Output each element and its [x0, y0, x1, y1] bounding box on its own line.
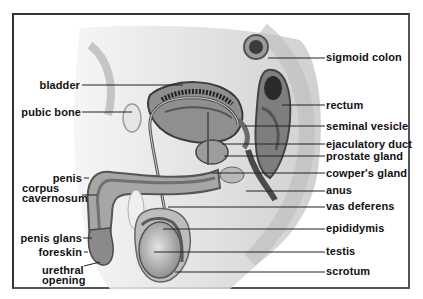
label-penis-glans: penis glans [20, 233, 82, 244]
label-bladder: bladder [24, 80, 80, 91]
label-foreskin: foreskin [30, 247, 82, 258]
label-rectum: rectum [326, 100, 363, 111]
label-testis: testis [326, 246, 355, 257]
label-sigmoid-colon: sigmoid colon [326, 52, 402, 63]
label-pubic-bone: pubic bone [20, 107, 81, 118]
label-opening-line2: opening [42, 275, 85, 285]
label-cowpers-gland: cowper's gland [326, 168, 407, 179]
sigmoid-colon-shape [244, 35, 268, 59]
label-seminal-vesicle: seminal vesicle [326, 121, 408, 132]
pubic-bone-shape [123, 104, 141, 132]
label-ejaculatory-duct: ejaculatory duct [326, 139, 412, 150]
label-prostate-gland: prostate gland [326, 151, 403, 162]
label-cavernosum-line2: cavernosum [22, 193, 88, 203]
label-urethral-opening: urethral opening [42, 265, 85, 285]
label-anus: anus [326, 185, 352, 196]
label-scrotum: scrotum [326, 266, 370, 277]
label-vas-deferens: vas deferens [326, 201, 394, 212]
label-corpus-cavernosum: corpus cavernosum [22, 183, 88, 203]
label-epididymis: epididymis [326, 223, 384, 234]
